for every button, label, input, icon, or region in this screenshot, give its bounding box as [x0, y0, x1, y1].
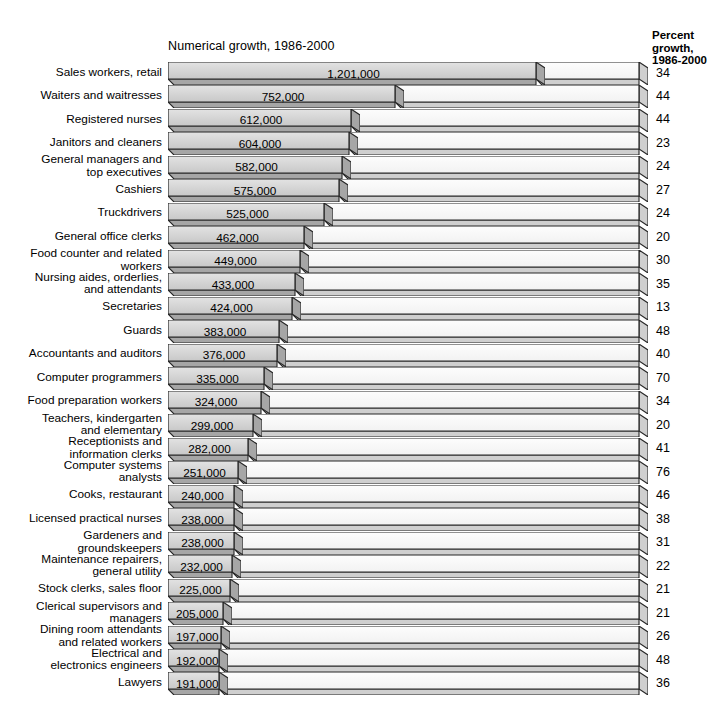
percent-growth-bar — [261, 391, 648, 417]
percent-growth-bar — [221, 626, 648, 652]
numerical-growth-bar: 525,000 — [168, 203, 333, 229]
row-category-label: Food preparation workers — [0, 394, 162, 407]
numerical-growth-bar: 582,000 — [168, 156, 351, 182]
numerical-growth-bar: 335,000 — [168, 367, 273, 393]
chart-row: Lawyers191,00036 — [0, 672, 700, 698]
percent-growth-bar — [536, 62, 648, 88]
percent-growth-value: 46 — [656, 488, 670, 502]
percent-growth-bar — [349, 132, 648, 158]
percent-growth-value: 48 — [656, 324, 670, 338]
percent-growth-value: 22 — [656, 559, 670, 573]
numerical-growth-bar: 604,000 — [168, 132, 358, 158]
row-category-label: Food counter and related workers — [0, 247, 162, 272]
percent-growth-value: 34 — [656, 66, 670, 80]
numerical-growth-bar: 299,000 — [168, 414, 262, 440]
numerical-growth-bar: 191,000 — [168, 672, 228, 698]
chart-row: Truckdrivers525,00024 — [0, 203, 700, 229]
percent-growth-bar — [339, 179, 648, 205]
row-category-label: Teachers, kindergarten and elementary — [0, 412, 162, 437]
numerical-growth-bar: 752,000 — [168, 85, 404, 111]
percent-growth-bar — [234, 508, 648, 534]
row-category-label: Waiters and waitresses — [0, 89, 162, 102]
row-category-label: Accountants and auditors — [0, 347, 162, 360]
row-category-label: Receptionists and information clerks — [0, 435, 162, 460]
percent-growth-value: 41 — [656, 441, 670, 455]
percent-growth-bar — [395, 85, 648, 111]
numerical-growth-bar: 324,000 — [168, 391, 270, 417]
row-category-label: General office clerks — [0, 230, 162, 243]
percent-growth-value: 21 — [656, 582, 670, 596]
chart-row: Registered nurses612,00044 — [0, 109, 700, 135]
percent-growth-bar — [232, 555, 648, 581]
percent-growth-bar — [219, 649, 648, 675]
percent-growth-value: 48 — [656, 653, 670, 667]
row-category-label: Dining room attendants and related worke… — [0, 623, 162, 648]
percent-growth-bar — [248, 438, 648, 464]
percent-growth-bar — [253, 414, 648, 440]
row-category-label: Guards — [0, 324, 162, 337]
row-category-label: Computer programmers — [0, 371, 162, 384]
chart-row: Computer systems analysts251,00076 — [0, 461, 700, 487]
percent-growth-value: 44 — [656, 89, 670, 103]
row-category-label: Secretaries — [0, 300, 162, 313]
percent-growth-value: 44 — [656, 112, 670, 126]
chart-row: Nursing aides, orderlies, and attendants… — [0, 273, 700, 299]
numerical-growth-bar: 383,000 — [168, 320, 288, 346]
chart-row: Sales workers, retail1,201,00034 — [0, 62, 700, 88]
percent-growth-bar — [223, 602, 648, 628]
percent-growth-bar — [292, 297, 648, 323]
row-category-label: Clerical supervisors and managers — [0, 600, 162, 625]
row-category-label: Cashiers — [0, 183, 162, 196]
row-category-label: General managers and top executives — [0, 153, 162, 178]
row-category-label: Sales workers, retail — [0, 66, 162, 79]
numerical-growth-bar: 238,000 — [168, 532, 243, 558]
numerical-growth-bar: 433,000 — [168, 273, 304, 299]
percent-growth-value: 21 — [656, 606, 670, 620]
row-category-label: Electrical and electronics engineers — [0, 647, 162, 672]
numerical-growth-bar: 1,201,000 — [168, 62, 545, 88]
percent-growth-bar — [234, 532, 648, 558]
numerical-growth-bar: 462,000 — [168, 226, 313, 252]
percent-growth-bar — [304, 226, 648, 252]
row-category-label: Janitors and cleaners — [0, 136, 162, 149]
percent-growth-bar — [219, 672, 648, 698]
percent-growth-value: 34 — [656, 394, 670, 408]
percent-growth-bar — [234, 485, 648, 511]
row-category-label: Nursing aides, orderlies, and attendants — [0, 271, 162, 296]
percent-growth-bar — [300, 250, 648, 276]
numerical-growth-bar: 238,000 — [168, 508, 243, 534]
numerical-growth-bar: 240,000 — [168, 485, 243, 511]
numerical-growth-bar: 612,000 — [168, 109, 360, 135]
row-category-label: Stock clerks, sales floor — [0, 582, 162, 595]
chart-row: Accountants and auditors376,00040 — [0, 344, 700, 370]
percent-growth-bar — [238, 461, 648, 487]
numerical-growth-bar: 376,000 — [168, 344, 286, 370]
numerical-growth-bar: 282,000 — [168, 438, 257, 464]
percent-growth-value: 40 — [656, 347, 670, 361]
percent-growth-bar — [279, 320, 648, 346]
numerical-growth-bar: 251,000 — [168, 461, 247, 487]
percent-growth-bar — [277, 344, 648, 370]
percent-growth-value: 24 — [656, 206, 670, 220]
numerical-growth-bar: 205,000 — [168, 602, 232, 628]
percent-growth-value: 23 — [656, 136, 670, 150]
row-category-label: Gardeners and groundskeepers — [0, 529, 162, 554]
chart-row: Guards383,00048 — [0, 320, 700, 346]
percent-growth-value: 20 — [656, 230, 670, 244]
numerical-growth-bar: 197,000 — [168, 626, 230, 652]
percent-growth-bar — [342, 156, 648, 182]
chart-row: Cooks, restaurant240,00046 — [0, 485, 700, 511]
chart-row: Computer programmers335,00070 — [0, 367, 700, 393]
chart-row: Cashiers575,00027 — [0, 179, 700, 205]
percent-growth-value: 24 — [656, 159, 670, 173]
percent-growth-bar — [351, 109, 648, 135]
percent-growth-value: 31 — [656, 535, 670, 549]
chart-row: Secretaries424,00013 — [0, 297, 700, 323]
numerical-growth-bar: 225,000 — [168, 579, 239, 605]
numerical-growth-bar: 449,000 — [168, 250, 309, 276]
percent-growth-value: 26 — [656, 629, 670, 643]
numerical-growth-bar: 424,000 — [168, 297, 301, 323]
row-category-label: Registered nurses — [0, 113, 162, 126]
